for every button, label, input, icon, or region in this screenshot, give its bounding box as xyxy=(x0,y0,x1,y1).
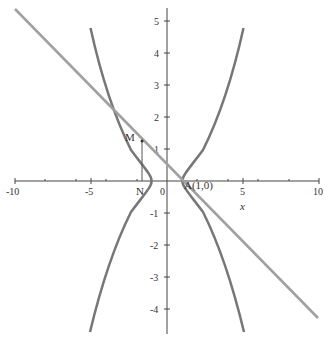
x-tick-label: -5 xyxy=(85,186,93,197)
y-tick-label: -4 xyxy=(150,304,158,315)
x-tick-label: 5 xyxy=(240,186,245,197)
x-tick-label: 10 xyxy=(313,186,323,197)
y-tick-label: 2 xyxy=(154,112,159,123)
y-tick-label: -2 xyxy=(150,240,158,251)
y-tick-label: 5 xyxy=(154,16,159,27)
label-m: M xyxy=(125,131,135,143)
point-m xyxy=(141,140,144,143)
y-tick-label: 3 xyxy=(154,80,159,91)
y-tick-label: -3 xyxy=(150,272,158,283)
y-tick-label: -1 xyxy=(150,208,158,219)
y-tick-label: 4 xyxy=(154,48,159,59)
label-n: N xyxy=(136,185,144,197)
label-a: A(1,0) xyxy=(184,179,213,192)
x-tick-label: -10 xyxy=(6,186,19,197)
origin-label: 0 xyxy=(160,186,165,197)
x-axis-label: x xyxy=(239,200,245,212)
plot-canvas: -10 -5 5 10 5 4 3 2 1 -1 -2 -3 -4 0 x M … xyxy=(0,0,333,344)
